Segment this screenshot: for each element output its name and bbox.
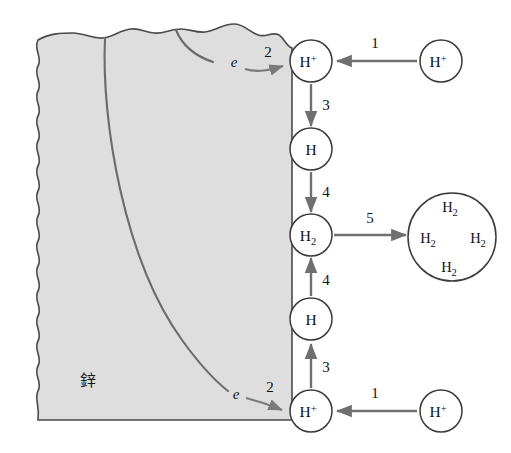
step-3-top-group: 3 xyxy=(311,84,330,126)
h2-surface-node: H2 xyxy=(290,214,332,256)
metal-body-shape xyxy=(37,24,292,420)
step-1-bottom-label: 1 xyxy=(371,385,379,401)
metal-label: 鋅 xyxy=(80,371,96,390)
step-5-label: 5 xyxy=(366,210,374,226)
step-1-bottom-group: 1 xyxy=(337,385,417,411)
h-atom-top-text: H xyxy=(305,141,316,158)
h-plus-solution-bottom-node: H+ xyxy=(420,390,462,432)
h2-gas-bubble: H2 H2 H2 H2 xyxy=(408,193,496,281)
step-3-top-label: 3 xyxy=(322,97,330,113)
h-plus-surface-top-node: H+ xyxy=(290,40,332,82)
zinc-metal-block: 鋅 xyxy=(37,24,292,420)
h-atom-bottom-node: H xyxy=(290,298,332,340)
h-atom-top-node: H xyxy=(290,128,332,170)
step-4-top-label: 4 xyxy=(322,184,330,200)
step-4-bottom-label: 4 xyxy=(322,272,330,288)
diagram-canvas: 鋅 1 H+ e 2 H+ 3 H 4 xyxy=(0,0,511,453)
h2-surface-circle xyxy=(290,214,332,256)
step-2-bottom-label: 2 xyxy=(266,379,274,395)
step-2-top-label: 2 xyxy=(264,44,272,60)
h-plus-surface-bottom-node: H+ xyxy=(290,390,332,432)
electron-label-top: e xyxy=(231,54,238,70)
step-4-top-group: 4 xyxy=(311,172,330,212)
step-3-bottom-group: 3 xyxy=(311,344,330,388)
h-atom-bottom-text: H xyxy=(305,311,316,328)
step-1-top-group: 1 xyxy=(337,35,417,61)
step-4-bottom-group: 4 xyxy=(311,258,330,296)
electron-label-bottom: e xyxy=(233,386,240,402)
h-plus-solution-top-node: H+ xyxy=(420,40,462,82)
step-3-bottom-label: 3 xyxy=(322,359,330,375)
step-5-group: 5 xyxy=(334,210,406,235)
step-1-top-label: 1 xyxy=(371,35,379,51)
